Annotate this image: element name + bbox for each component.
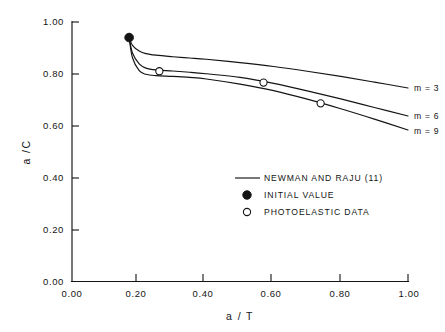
legend-open-circle-icon	[243, 208, 250, 215]
x-tick-label-0: 0.00	[62, 288, 83, 299]
chart-legend: NEWMAN AND RAJU (11) INITIAL VALUE PHOTO…	[235, 173, 383, 217]
chart-svg: 1.00 0.80 0.60 0.40 0.20 0.00 a /C 0.00 …	[0, 0, 445, 332]
initial-value-marker	[125, 33, 134, 42]
x-tick-label-1: 0.20	[126, 288, 147, 299]
series-labels: m = 3 m = 6 m = 9	[414, 83, 439, 136]
x-tick-label-5: 1.00	[399, 288, 420, 299]
y-tick-label-4: 0.80	[43, 68, 64, 79]
photoelastic-point-1	[260, 79, 267, 86]
y-axis-title: a /C	[20, 140, 32, 165]
legend-label-1: INITIAL VALUE	[264, 190, 334, 200]
x-tick-label-4: 0.80	[330, 288, 351, 299]
data-curves	[129, 38, 408, 130]
y-tick-label-5: 1.00	[43, 16, 64, 27]
x-tick-label-2: 0.40	[193, 288, 214, 299]
photoelastic-point-0	[156, 68, 163, 75]
y-tick-label-3: 0.60	[43, 120, 64, 131]
photoelastic-point-2	[317, 100, 324, 107]
y-axis: 1.00 0.80 0.60 0.40 0.20 0.00 a /C	[20, 16, 79, 287]
curve-m-9	[129, 38, 408, 130]
curve-m-3	[129, 38, 408, 89]
y-tick-label-1: 0.20	[43, 224, 64, 235]
series-label-m-3: m = 3	[414, 83, 439, 93]
photoelastic-markers	[156, 68, 324, 107]
x-tick-label-3: 0.60	[261, 288, 282, 299]
series-label-m-9: m = 9	[414, 126, 439, 136]
y-tick-label-0: 0.00	[43, 276, 64, 287]
legend-filled-circle-icon	[243, 191, 251, 199]
legend-label-0: NEWMAN AND RAJU (11)	[264, 173, 383, 183]
x-axis-title: a / T	[226, 310, 254, 322]
initial-value-point	[125, 33, 134, 42]
series-label-m-6: m = 6	[414, 111, 439, 121]
y-tick-label-2: 0.40	[43, 172, 64, 183]
chart-figure: 1.00 0.80 0.60 0.40 0.20 0.00 a /C 0.00 …	[0, 0, 445, 332]
legend-label-2: PHOTOELASTIC DATA	[264, 207, 370, 217]
x-axis: 0.00 0.20 0.40 0.60 0.80 1.00 a / T	[62, 274, 420, 322]
